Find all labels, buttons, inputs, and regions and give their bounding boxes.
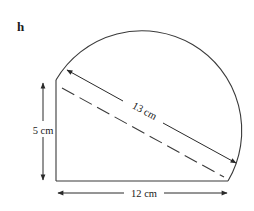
composite-shape-diagram: h 13 cm 5 cm 12 cm <box>0 0 254 211</box>
dashed-diagonal <box>62 88 224 177</box>
height-dimension-label: 5 cm <box>33 125 54 136</box>
width-dimension-label: 12 cm <box>131 188 157 199</box>
diagonal-dimension-label: 13 cm <box>131 100 159 122</box>
diagonal-dimension-arrow-upper <box>67 70 123 101</box>
figure-label: h <box>17 19 25 34</box>
diagonal-dimension-arrow-lower <box>163 123 236 163</box>
